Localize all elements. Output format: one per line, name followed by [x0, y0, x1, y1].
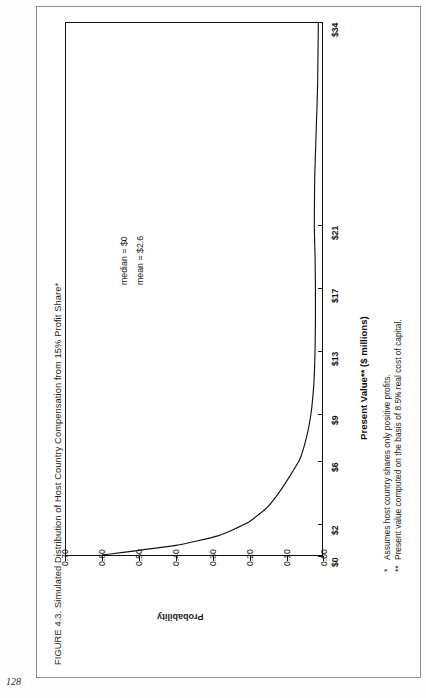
footnote-1-marker: *	[382, 560, 392, 572]
chart-plot-area	[65, 22, 323, 556]
footnote-2-marker: **	[393, 560, 403, 572]
figure-title: FIGURE 4.3. Simulated Distribution of Ho…	[53, 5, 63, 665]
xtick-label-6: $6	[330, 462, 340, 472]
xtick-label-0: $0	[330, 557, 340, 567]
distribution-curve	[66, 23, 322, 555]
xtick-label-34: $34	[330, 23, 340, 37]
ytick-label-030: 0.30	[208, 549, 218, 566]
xtick-label-2: $2	[330, 525, 340, 535]
ytick-label-000: 0.00	[319, 549, 329, 566]
ytick-label-010: 0.10	[282, 549, 292, 566]
xtick-label-21: $21	[330, 226, 340, 240]
footnote-1-text: Assumes host country shares only positiv…	[382, 374, 392, 560]
annotation-mean: mean = $2.6	[135, 236, 145, 285]
ytick-label-020: 0.20	[245, 549, 255, 566]
xtick-label-17: $17	[330, 289, 340, 303]
scanned-page: FIGURE 4.3. Simulated Distribution of Ho…	[0, 0, 426, 698]
ytick-label-060: 0.60	[97, 549, 107, 566]
xtick-label-9: $9	[330, 415, 340, 425]
ytick-label-040: 0.40	[171, 549, 181, 566]
ytick-label-050: 0.50	[134, 549, 144, 566]
xtick-mark	[318, 288, 323, 289]
annotation-median: median = $0	[119, 236, 129, 285]
xtick-mark	[318, 225, 323, 226]
xtick-mark	[318, 524, 323, 525]
footnote-2-text: Present value computed on the basis of 8…	[393, 319, 403, 560]
y-axis-title: Probability	[157, 612, 204, 622]
xtick-mark	[318, 414, 323, 415]
xtick-mark	[318, 22, 323, 23]
xtick-mark	[318, 556, 323, 557]
ytick-label-070: 0.70	[60, 549, 70, 566]
xtick-mark	[318, 461, 323, 462]
page-number: 128	[6, 676, 21, 687]
xtick-mark	[318, 351, 323, 352]
footnote-2: **Present value computed on the basis of…	[393, 319, 403, 572]
x-axis-title: Present Value** ($ millions)	[358, 316, 369, 440]
footnote-1: *Assumes host country shares only positi…	[382, 374, 392, 572]
xtick-label-13: $13	[330, 352, 340, 366]
